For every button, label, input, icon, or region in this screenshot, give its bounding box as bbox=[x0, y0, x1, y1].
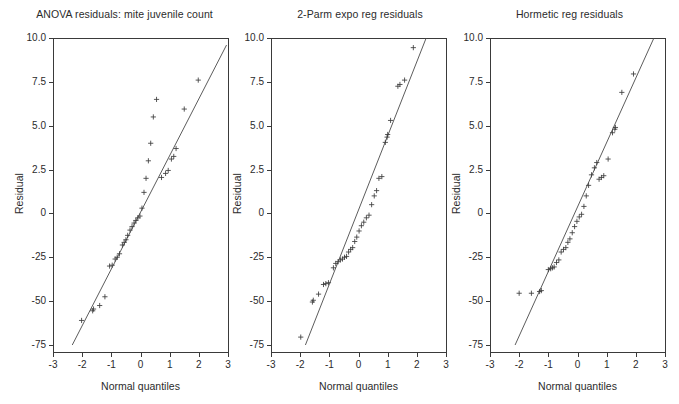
data-point-marker bbox=[584, 193, 589, 198]
data-point-marker bbox=[631, 71, 636, 76]
data-point-marker bbox=[577, 214, 582, 219]
data-point-marker bbox=[554, 260, 559, 265]
chart-panel-3: Hormetic reg residualsResidualNormal qua… bbox=[0, 0, 679, 404]
data-point-marker bbox=[606, 156, 611, 161]
data-point-marker bbox=[570, 230, 575, 235]
data-point-marker bbox=[574, 219, 579, 224]
axis-frame bbox=[491, 39, 666, 353]
data-point-marker bbox=[581, 204, 586, 209]
data-point-marker bbox=[559, 249, 564, 254]
reference-line bbox=[515, 38, 654, 345]
data-point-marker bbox=[517, 291, 522, 296]
data-point-marker bbox=[579, 212, 584, 217]
qq-plot-figure: ANOVA residuals: mite juvenile countResi… bbox=[0, 0, 679, 404]
data-point-marker bbox=[529, 291, 534, 296]
data-point-marker bbox=[572, 224, 577, 229]
data-point-marker bbox=[556, 257, 561, 262]
plot-area bbox=[0, 0, 679, 404]
data-point-marker bbox=[619, 90, 624, 95]
